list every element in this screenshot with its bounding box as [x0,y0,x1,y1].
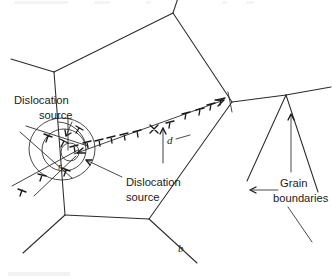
dislocation-symbol [120,133,128,140]
grain-boundary-edge-top-right [173,13,232,102]
dislocation-symbol [196,108,204,115]
dislocation-source-label-lower: Dislocation source [86,160,181,203]
dislocation-symbol-cross-marker [150,125,158,133]
grain-boundaries-line1: Grain [280,177,307,189]
dislocation-source-lower-line2: source [126,191,160,203]
grain-boundary-edge-bottom [65,215,149,219]
pileup-distance-dimension: d [160,128,190,163]
dislocation-pileup-figure: d r b Dislocation source Dislocation sou… [0,0,332,280]
grain-boundary-stub-right [232,95,286,102]
grain-boundary-stub-upper-left [11,59,54,72]
dislocation-symbol [44,134,52,142]
pileup-slip-plane-group [74,92,232,154]
grain-boundary-stub-bottom-right [149,219,197,263]
grain-boundary-right-upper [286,87,331,95]
dimension-label-dash [176,135,190,139]
dislocation-symbol [166,121,174,128]
dislocation-source-upper-line1: Dislocation [14,94,69,106]
grain-boundaries-label: Grain boundaries [250,114,329,242]
grain-boundary-right-lower-left [247,95,286,181]
dislocation-source-upper-line2: source [39,109,73,121]
slip-line-diagonal [20,132,72,178]
burgers-vector-label: b [178,242,184,254]
grain-boundaries-line2: boundaries [273,192,329,204]
slip-line-left-lower [12,150,78,186]
source-radius-label: r [58,162,62,172]
dislocation-symbol [133,130,141,137]
dislocation-symbol [18,189,26,196]
grain-boundaries-arrow-lower-shaft [288,207,312,242]
dislocation-symbol [38,174,46,181]
grain-boundary-edge-top-left [54,13,173,72]
dislocation-source-label-upper: Dislocation source [14,94,73,136]
grain-boundary-stub-top [173,0,178,13]
source-loop-partial [58,122,86,145]
diagram-canvas: d r b Dislocation source Dislocation sou… [0,0,332,280]
grain-boundaries-group [11,0,331,263]
pileup-distance-label: d [167,134,173,146]
dislocation-source-lower-line1: Dislocation [126,176,181,188]
grain-boundary-edge-right [149,102,232,219]
grain-boundary-stub-bottom-left [23,215,65,253]
dislocation-source-lower-leader [86,160,122,177]
